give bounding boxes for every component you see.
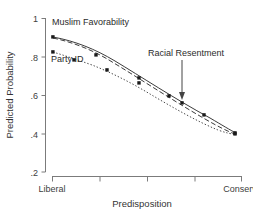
racial-resentment-arrow-head: [179, 92, 185, 100]
x-tick-label-liberal: Liberal: [38, 184, 65, 194]
chart-figure: 1 .8 .6 .4 .2 Predicted Probability Libe…: [0, 0, 253, 212]
y-tick-label-04: .4: [30, 130, 38, 140]
y-tick-label-06: .6: [30, 91, 38, 101]
data-point-marker: [167, 94, 170, 97]
y-tick-label-1: 1: [33, 14, 38, 24]
data-point-marker: [137, 76, 140, 79]
x-tick-label-conserv: Conserv: [223, 184, 253, 194]
y-tick-label-08: .8: [30, 53, 38, 63]
y-axis-title: Predicted Probability: [4, 51, 15, 138]
series-label-party-id: Party ID: [51, 54, 84, 64]
series-label-muslim-favorability: Muslim Favorability: [52, 17, 130, 27]
series-line-party-id: [53, 52, 236, 135]
data-point-marker: [180, 101, 183, 104]
data-point-marker: [105, 68, 108, 71]
series-label-racial-resentment: Racial Resentment: [148, 48, 225, 58]
chart-plot-area: 1 .8 .6 .4 .2 Predicted Probability Libe…: [0, 0, 253, 212]
data-point-marker: [51, 35, 54, 38]
x-axis-title: Predisposition: [112, 198, 172, 209]
data-point-marker: [137, 81, 140, 84]
data-point-marker: [233, 132, 236, 135]
data-point-marker: [94, 53, 97, 56]
y-tick-label-02: .2: [30, 168, 38, 178]
data-point-marker: [202, 113, 205, 116]
